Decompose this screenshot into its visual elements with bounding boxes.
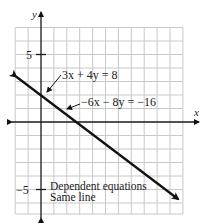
eq2-label: −6x − 8y = −16: [81, 95, 156, 109]
graph: y x 5 −5 3x + 4y = 8 −6x − 8y = −16 Depe…: [0, 0, 210, 224]
y-axis-label: y: [31, 8, 37, 20]
y-tick-label-5: 5: [26, 48, 32, 62]
x-axis-label: x: [193, 106, 199, 118]
note-same-line: Same line: [50, 191, 96, 203]
eq1-label: 3x + 4y = 8: [62, 68, 118, 82]
y-tick-label-neg5: −5: [16, 183, 29, 197]
